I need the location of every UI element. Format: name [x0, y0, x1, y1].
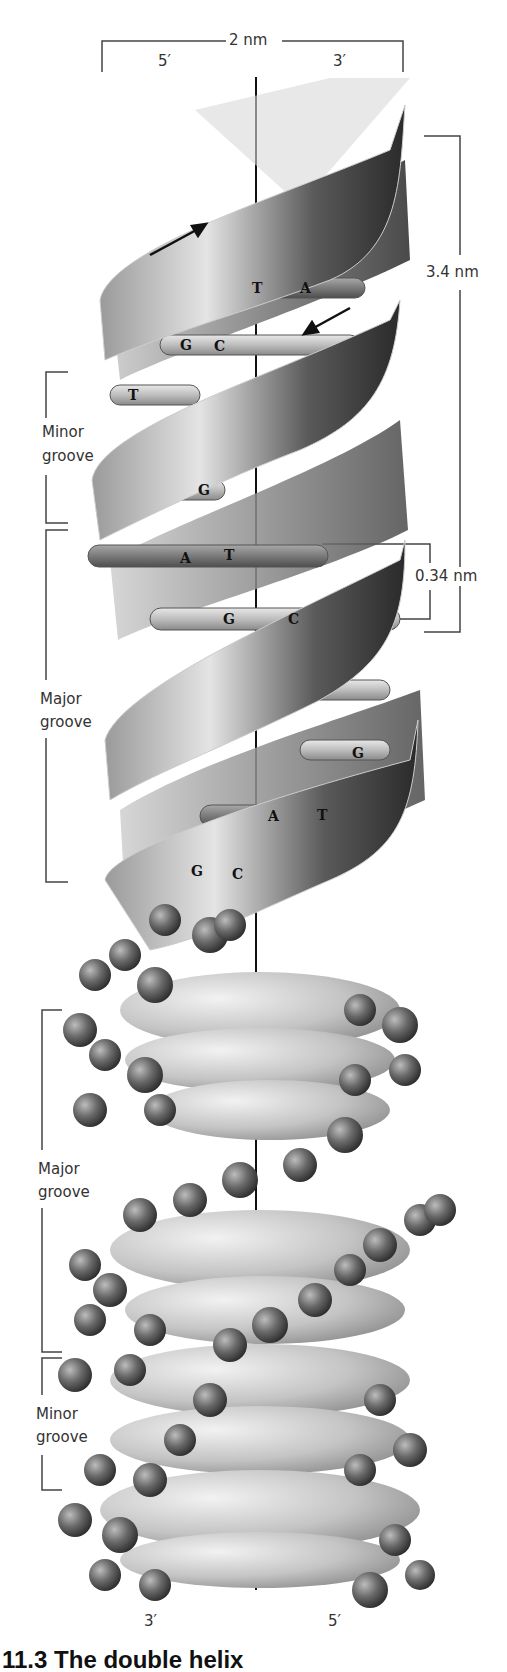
base-label: T	[252, 280, 262, 296]
base-label: G	[198, 482, 210, 498]
figure-caption: 11.3 The double helix	[2, 1646, 243, 1672]
base-label: A	[300, 280, 311, 296]
base-label: A	[180, 550, 191, 566]
ribbon-minor-groove-label-line1: Minor	[42, 423, 84, 442]
base-label: G	[352, 745, 364, 761]
bottom-left-3prime-label: 3′	[144, 1612, 157, 1631]
base-spacing-label: 0.34 nm	[412, 567, 480, 586]
spacefill-minor-groove-label-line1: Minor	[36, 1405, 78, 1424]
base-label: T	[317, 807, 327, 823]
ribbon-major-groove-label-line1: Major	[40, 690, 82, 709]
base-label: C	[232, 866, 243, 882]
base-label: G	[191, 863, 203, 879]
top-right-3prime-label: 3′	[333, 52, 346, 71]
spacefill-minor-groove-label-line2: groove	[36, 1428, 88, 1447]
ribbon-major-groove-label-line2: groove	[40, 713, 92, 732]
top-left-5prime-label: 5′	[158, 52, 171, 71]
ribbon-minor-groove-label-line2: groove	[42, 447, 94, 466]
base-label: G	[180, 337, 192, 353]
spacefill-major-groove-label-line2: groove	[38, 1183, 90, 1202]
base-label: T	[128, 387, 138, 403]
space-filling-model	[58, 904, 456, 1608]
base-label: A	[268, 808, 279, 824]
turn-length-label: 3.4 nm	[423, 263, 482, 282]
ribbon-model	[88, 78, 425, 950]
base-label: C	[288, 611, 299, 627]
base-label: T	[224, 547, 234, 563]
spacefill-major-groove-label-line1: Major	[38, 1160, 80, 1179]
bottom-right-5prime-label: 5′	[328, 1612, 341, 1631]
base-label: G	[223, 611, 235, 627]
base-label: C	[214, 338, 225, 354]
helix-width-label: 2 nm	[226, 31, 270, 50]
